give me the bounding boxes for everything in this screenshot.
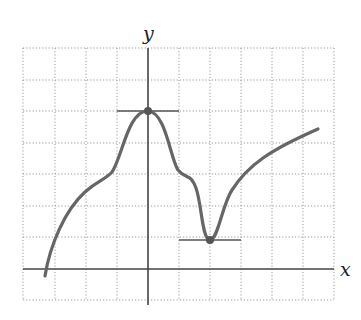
function-curve [45, 111, 318, 276]
graph-canvas: y x [0, 0, 361, 320]
grid [23, 48, 334, 300]
y-axis-label: y [142, 22, 154, 44]
x-axis-label: x [340, 258, 351, 280]
local-min-point [206, 236, 214, 244]
local-max-point [144, 107, 152, 115]
